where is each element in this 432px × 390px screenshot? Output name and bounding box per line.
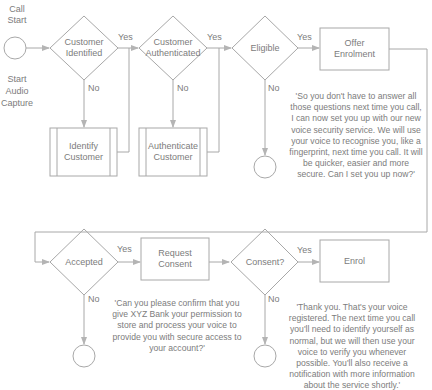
decision-consent-label: Consent?	[233, 257, 297, 268]
edge-label-yes: Yes	[118, 32, 133, 42]
edge-label-yes: Yes	[297, 245, 312, 255]
start-audio-capture-label: Start Audio Capture	[0, 73, 34, 109]
process-authenticate-customer-label: Authenticate Customer	[142, 141, 204, 163]
edge-label-no: No	[268, 294, 280, 304]
edge-label-yes: Yes	[207, 32, 222, 42]
edge-label-no: No	[268, 83, 280, 93]
decision-eligible-label: Eligible	[234, 43, 296, 54]
edge-label-yes: Yes	[297, 32, 312, 42]
edge-label-yes: Yes	[117, 244, 132, 254]
offer-enrolment-script: 'So you don't have to answer all those q…	[289, 91, 423, 181]
edge-label-no: No	[88, 83, 100, 93]
end-node-not-accepted	[73, 345, 95, 367]
process-identify-customer-label: Identify Customer	[57, 141, 110, 163]
enrol-confirmation-script: 'Thank you. That's your voice registered…	[287, 302, 417, 390]
decision-accepted-label: Accepted	[52, 257, 116, 268]
edge-label-no: No	[177, 83, 189, 93]
process-request-consent-label: Request Consent	[141, 248, 209, 270]
request-consent-script: 'Can you please confirm that you give XY…	[112, 298, 242, 354]
process-offer-enrolment-label: Offer Enrolment	[320, 38, 389, 60]
start-node	[4, 37, 26, 59]
decision-customer-authenticated-label: Customer Authenticated	[136, 37, 210, 59]
start-label: Call Start	[0, 4, 34, 26]
end-node-no-consent	[254, 345, 276, 367]
process-enrol-label: Enrol	[320, 256, 389, 267]
decision-customer-identified-label: Customer Identified	[52, 37, 116, 59]
edge-label-no: No	[88, 294, 100, 304]
end-node-not-eligible	[254, 156, 276, 178]
